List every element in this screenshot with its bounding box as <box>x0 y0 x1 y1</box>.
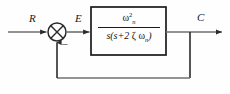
transfer-function-numerator: ω2n <box>96 11 162 27</box>
transfer-function-denominator: s(s+2 ζ ωn) <box>96 28 162 44</box>
numerator-subscript: n <box>132 18 135 25</box>
output-signal-label: C <box>197 12 204 23</box>
denominator-omega: ω <box>138 30 145 41</box>
block-diagram: R E C – ω2n s(s+2 ζ ωn) <box>0 0 230 94</box>
error-signal-label: E <box>75 13 82 24</box>
numerator-superscript: 2 <box>129 11 132 18</box>
input-signal-label: R <box>29 13 36 24</box>
denominator-lead: s(s+2 <box>106 30 131 41</box>
feedback-minus-sign: – <box>62 38 68 49</box>
denominator-close: ) <box>148 30 151 41</box>
transfer-function-expression: ω2n s(s+2 ζ ωn) <box>96 11 162 45</box>
